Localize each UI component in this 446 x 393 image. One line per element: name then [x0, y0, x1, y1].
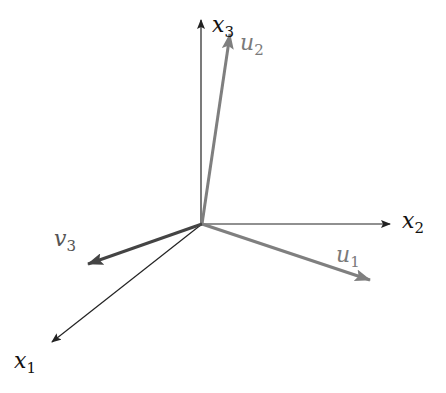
axis-x3-label: x3 — [212, 14, 234, 40]
vector-u2-line — [202, 34, 230, 224]
vector-u2-label: u2 — [240, 32, 264, 58]
vector-v3-line — [88, 224, 202, 264]
axis-x2-subscript: 2 — [414, 219, 424, 237]
axis-x2-symbol: x — [402, 208, 414, 233]
axis-x3-subscript: 3 — [224, 23, 234, 41]
axis-x1-label: x1 — [14, 350, 36, 376]
vector-u1-subscript: 1 — [350, 253, 360, 271]
vector-v3-subscript: 3 — [66, 237, 76, 255]
vector-u1-label: u1 — [336, 244, 360, 270]
vector-v3-symbol: v — [54, 226, 66, 251]
axis-x1-subscript: 1 — [26, 359, 36, 377]
vector-u2-symbol: u — [240, 30, 254, 55]
coordinate-diagram — [0, 0, 446, 393]
axis-x1-symbol: x — [14, 348, 26, 373]
axis-x3-symbol: x — [212, 12, 224, 37]
vector-u2-subscript: 2 — [254, 41, 264, 59]
vector-u1-symbol: u — [336, 242, 350, 267]
vector-v3-label: v3 — [54, 228, 76, 254]
axis-x2-label: x2 — [402, 210, 424, 236]
